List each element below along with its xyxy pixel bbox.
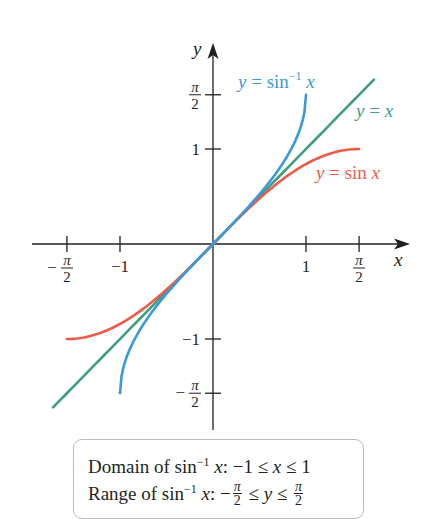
domain-range-box: Domain of sin−1 x: −1 ≤ x ≤ 1 Range of s… <box>73 439 364 519</box>
y-tick-label: 1 <box>192 140 201 159</box>
y-tick-label: −1 <box>182 330 200 349</box>
x-tick-label: −1 <box>111 257 129 276</box>
svg-text:2: 2 <box>355 269 363 285</box>
svg-text:−: − <box>47 258 57 277</box>
svg-text:π: π <box>191 79 199 95</box>
x-tick-label: 1 <box>302 257 311 276</box>
identity-label: y = x <box>354 100 394 121</box>
svg-text:π: π <box>63 252 71 268</box>
arcsin-label-eq: = sin <box>246 71 289 92</box>
svg-text:2: 2 <box>191 394 199 410</box>
sine-label: y = sin x <box>314 162 381 183</box>
svg-text:−: − <box>175 383 185 402</box>
svg-text:2: 2 <box>191 96 199 112</box>
domain-statement: Domain of sin−1 x: −1 ≤ x ≤ 1 <box>88 457 311 477</box>
pi-over-2: π2 <box>294 480 303 507</box>
arcsin-label-sup: −1 <box>289 69 302 83</box>
neg-pi-over-2: π2 <box>233 480 242 507</box>
svg-text:π: π <box>191 377 199 393</box>
range-statement: Range of sin−1 x: −π2 ≤ y ≤ π2 <box>88 482 305 509</box>
svg-text:π: π <box>355 252 363 268</box>
x-axis-label: x <box>393 249 403 270</box>
svg-text:2: 2 <box>63 269 71 285</box>
x-tick-label: π2− <box>47 252 73 285</box>
y-axis-label: y <box>191 38 202 59</box>
y-tick-label: π2− <box>175 377 201 410</box>
y-tick-label: π2 <box>189 79 201 112</box>
x-tick-label: π2 <box>353 252 365 285</box>
arcsin-label: y = sin−1 x <box>236 69 315 92</box>
